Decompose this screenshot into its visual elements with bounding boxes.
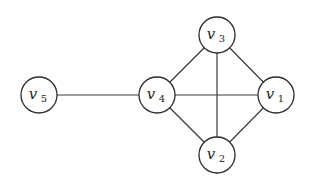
node-subscript: 2 [219,153,225,164]
node-subscript: 4 [159,93,165,104]
node-label: v [147,85,156,103]
node-label: v [266,85,275,103]
graph-diagram: v1v2v3v4v5 [0,0,314,184]
node-label: v [29,85,38,103]
node-circle [258,77,294,113]
node-circle [21,77,57,113]
node-circle [199,17,235,53]
node-label: v [207,25,216,43]
node-v1: v1 [258,77,294,113]
node-v5: v5 [21,77,57,113]
node-circle [139,77,175,113]
node-circle [199,137,235,173]
node-subscript: 1 [278,93,284,104]
node-subscript: 3 [219,33,225,44]
node-subscript: 5 [41,93,47,104]
node-v2: v2 [199,137,235,173]
node-v3: v3 [199,17,235,53]
node-v4: v4 [139,77,175,113]
node-label: v [207,145,216,163]
